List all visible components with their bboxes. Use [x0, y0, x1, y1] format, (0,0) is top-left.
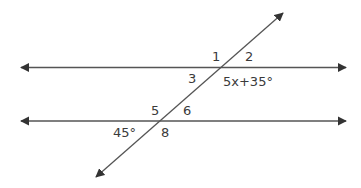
- angle-2-label: 2: [245, 50, 253, 63]
- angle-4-expression-label: 5x+35°: [223, 75, 273, 88]
- angle-6-label: 6: [183, 104, 191, 117]
- transversal-line: [96, 13, 283, 177]
- angle-3-label: 3: [188, 72, 196, 85]
- angle-8-label: 8: [161, 126, 169, 139]
- angle-1-label: 1: [212, 50, 220, 63]
- angle-7-value-label: 45°: [113, 126, 136, 139]
- angle-5-label: 5: [151, 104, 159, 117]
- diagram-canvas: [0, 0, 361, 188]
